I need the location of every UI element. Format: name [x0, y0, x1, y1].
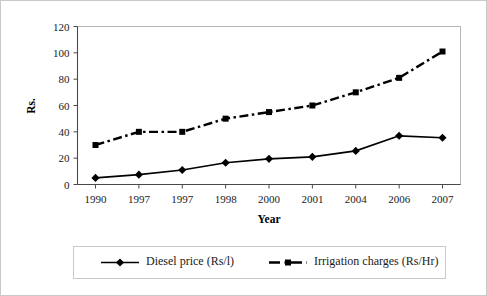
data-point-marker: [352, 147, 360, 155]
data-point-marker: [265, 155, 273, 163]
data-point-marker: [266, 109, 272, 115]
x-tick-label: 2006: [388, 193, 411, 205]
x-tick-label: 2004: [345, 193, 368, 205]
legend-square-marker: [285, 260, 291, 266]
y-tick-label: 100: [53, 47, 70, 59]
x-tick-label: 2001: [301, 193, 323, 205]
line-chart-svg: 020406080100120 199019971997199820002001…: [1, 1, 487, 296]
data-point-marker: [396, 75, 402, 81]
series-1: [91, 132, 446, 182]
data-point-marker: [91, 174, 99, 182]
x-tick-label: 1997: [171, 193, 194, 205]
x-tick-label: 2000: [258, 193, 281, 205]
data-point-marker: [438, 134, 446, 142]
y-tick-label: 20: [59, 152, 71, 164]
data-point-marker: [136, 129, 142, 135]
x-tick-label: 2007: [432, 193, 455, 205]
legend-label: Irrigation charges (Rs/Hr): [314, 254, 438, 268]
data-point-marker: [308, 153, 316, 161]
y-tick-label: 40: [59, 126, 71, 138]
data-point-marker: [135, 171, 143, 179]
y-axis-ticks: 020406080100120: [53, 21, 78, 191]
x-tick-label: 1998: [215, 193, 238, 205]
data-point-marker: [353, 89, 359, 95]
chart-figure: 020406080100120 199019971997199820002001…: [0, 0, 487, 296]
data-point-marker: [179, 129, 185, 135]
series-2: [93, 49, 446, 148]
chart-area: 020406080100120 199019971997199820002001…: [1, 1, 487, 296]
data-point-marker: [178, 166, 186, 174]
legend-items: Diesel price (Rs/l)Irrigation charges (R…: [101, 254, 438, 268]
legend-label: Diesel price (Rs/l): [146, 254, 234, 268]
y-axis-title: Rs.: [25, 98, 37, 114]
y-tick-label: 60: [59, 100, 71, 112]
y-tick-label: 0: [64, 179, 70, 191]
data-point-marker: [93, 142, 99, 148]
series-layer: [91, 49, 446, 182]
data-point-marker: [223, 116, 229, 122]
series-line-2: [96, 52, 443, 145]
data-point-marker: [222, 159, 230, 167]
x-axis-title: Year: [258, 213, 281, 225]
legend-item-2: Irrigation charges (Rs/Hr): [269, 254, 438, 268]
data-point-marker: [440, 49, 446, 55]
data-point-marker: [309, 103, 315, 109]
x-tick-label: 1990: [85, 193, 108, 205]
x-axis-ticks: 199019971997199820002001200420062007: [85, 185, 455, 205]
x-tick-label: 1997: [128, 193, 151, 205]
legend-diamond-marker: [116, 258, 124, 266]
legend-item-1: Diesel price (Rs/l): [101, 254, 234, 268]
y-tick-label: 120: [53, 21, 70, 33]
y-tick-label: 80: [59, 73, 71, 85]
data-point-marker: [395, 132, 403, 140]
